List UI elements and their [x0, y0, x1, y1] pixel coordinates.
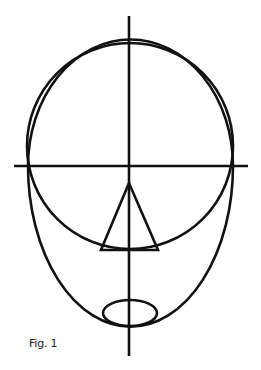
face-egg-outline — [28, 39, 233, 326]
figure-caption: Fig. 1 — [29, 337, 57, 350]
head-proportion-diagram — [0, 0, 261, 370]
